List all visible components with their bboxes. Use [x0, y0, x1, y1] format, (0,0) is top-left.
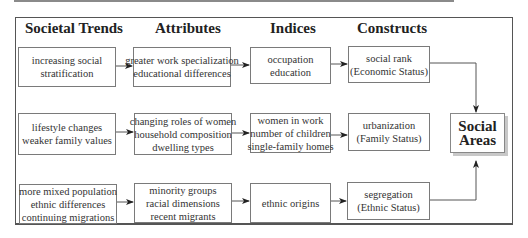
connector-arrows — [0, 0, 528, 238]
arrow-icon — [430, 63, 476, 112]
arrow-icon — [430, 161, 476, 200]
